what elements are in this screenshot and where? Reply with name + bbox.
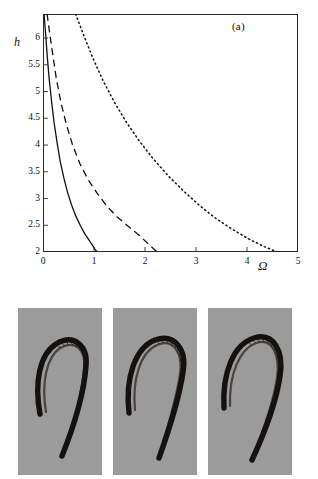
y-axis-ticks: 22.533.544.555.56 [4,0,40,285]
filament-b-svg [18,308,102,475]
x-tick-label: 5 [287,257,309,267]
panel-d-image [208,308,292,475]
panel-a-plot: (a) h Ω 22.533.544.555.56 012345 [0,0,318,285]
filament-c-svg [113,308,197,475]
y-tick-label: 3 [8,194,40,204]
plot-curves [43,14,298,252]
x-tick-label: 4 [236,257,258,267]
y-tick-label: 6 [8,33,40,43]
panel-c-image [113,308,197,475]
y-tick-label: 2.5 [8,220,40,230]
figure-panel-group: (a) h Ω 22.533.544.555.56 012345 (b) (c) [0,0,318,479]
x-tick-label: 3 [185,257,207,267]
snapshot-panels: (b) (c) (d) [0,286,318,479]
y-tick-label: 4 [8,140,40,150]
x-tick-label: 2 [134,257,156,267]
filament-d-svg [208,308,292,475]
y-tick-label: 3.5 [8,167,40,177]
y-tick-label: 5 [8,87,40,97]
panel-b-image [18,308,102,475]
panel-c: (c) [113,308,197,475]
y-tick-label: 2 [8,247,40,257]
x-tick-label: 0 [32,257,54,267]
panel-b: (b) [18,308,102,475]
panel-a-label: (a) [232,20,245,32]
y-tick-label: 5.5 [8,60,40,70]
y-tick-label: 4.5 [8,113,40,123]
x-axis-ticks: 012345 [0,257,318,271]
panel-d: (d) [208,308,292,475]
x-tick-label: 1 [83,257,105,267]
